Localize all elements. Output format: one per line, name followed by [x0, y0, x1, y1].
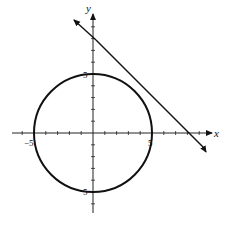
coordinate-plane: x y −5 5 5 5: [0, 0, 237, 229]
y-axis-label: y: [85, 2, 91, 14]
y-pos-tick-label: 5: [83, 70, 88, 80]
x-pos-tick-label: 5: [148, 138, 153, 148]
x-axis-label: x: [213, 127, 219, 139]
tangent-line-lower-arrow: [203, 147, 206, 152]
tangent-line: [96, 40, 203, 147]
x-neg-tick-label: −5: [24, 138, 34, 148]
y-neg-tick-label: 5: [83, 187, 88, 197]
